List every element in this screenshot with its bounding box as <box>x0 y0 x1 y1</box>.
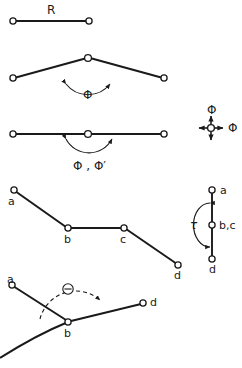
label-atom-d-chain: d <box>174 270 181 281</box>
label-atom-b-oop: b <box>64 328 71 339</box>
atom-node-b <box>65 319 71 325</box>
atom-node-center <box>208 125 215 132</box>
label-bond-length-R: R <box>47 4 55 16</box>
figure-canvas <box>0 0 242 368</box>
angle-arc <box>66 139 112 153</box>
atom-node-d <box>175 262 181 268</box>
atom-node <box>161 75 167 81</box>
out-of-plane-arc <box>40 291 100 319</box>
label-atom-b-chain: b <box>64 234 71 245</box>
atom-node-c <box>121 225 127 231</box>
degenerate-bend-panel <box>199 116 223 140</box>
atom-node <box>10 18 16 24</box>
bond-line-left <box>14 58 87 78</box>
label-atom-d-newman: d <box>209 264 216 275</box>
atom-node-vertex <box>85 131 92 138</box>
molecular-geometry-figure: R Φ Φ , Φ′ Φ Φ a b c d a b,c d τ a b d <box>0 0 242 368</box>
theta-glyph <box>63 284 73 294</box>
bond-length-panel <box>10 18 92 24</box>
atom-node <box>161 131 167 137</box>
label-atom-c-chain: c <box>120 234 126 245</box>
label-atom-a-newman: a <box>220 185 227 196</box>
atom-node-a <box>11 187 17 193</box>
atom-node-d <box>209 256 215 262</box>
atom-node <box>10 75 16 81</box>
bond-line-right <box>90 58 163 78</box>
label-degenerate-bend-phi-horizontal: Φ <box>228 122 237 134</box>
bond-line-bd <box>71 304 141 321</box>
label-bond-angle-phi: Φ <box>83 89 92 101</box>
label-degenerate-bend-phi-vertical: Φ <box>207 104 216 116</box>
atom-node-b <box>65 225 71 231</box>
torsion-chain-panel <box>11 187 181 268</box>
backbone-curve <box>0 322 68 358</box>
atom-node <box>86 18 92 24</box>
bond-line-ab <box>13 286 66 320</box>
label-atom-d-oop: d <box>150 297 157 308</box>
atom-node-d <box>140 300 146 306</box>
label-atom-a-chain: a <box>8 196 15 207</box>
atom-node-bc <box>209 222 215 228</box>
atom-node-vertex <box>85 55 92 62</box>
label-linear-angle-phi: Φ , Φ′ <box>73 160 106 172</box>
atom-node <box>10 131 16 137</box>
bond-line-ab <box>15 191 66 227</box>
out-of-plane-panel <box>0 282 146 358</box>
atom-node-a <box>209 187 215 193</box>
linear-angle-panel <box>10 131 167 153</box>
bond-line-cd <box>126 229 177 264</box>
label-atom-bc-newman: b,c <box>219 220 236 231</box>
label-torsion-tau: τ <box>190 219 197 231</box>
label-atom-a-oop: a <box>7 274 14 285</box>
